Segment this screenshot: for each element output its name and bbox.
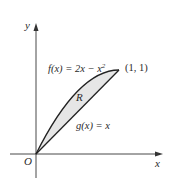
x-axis-label: x — [154, 157, 160, 169]
origin-label: O — [24, 155, 32, 167]
curve-g — [36, 70, 119, 154]
y-axis-arrow-icon — [34, 23, 39, 31]
curve-g-label: g(x) = x — [76, 120, 110, 132]
curve-f-label: f(x) = 2x − x2 — [48, 62, 106, 75]
point-label: (1, 1) — [125, 62, 148, 74]
region-diagram: y x O f(x) = 2x − x2 (1, 1) R g(x) = x — [0, 0, 172, 183]
x-axis-arrow-icon — [155, 152, 163, 157]
region-label: R — [75, 91, 83, 103]
y-axis-label: y — [24, 19, 30, 31]
